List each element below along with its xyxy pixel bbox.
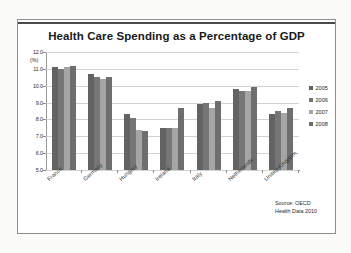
bar-group: Ireland — [154, 52, 190, 170]
slide-top-rule — [18, 22, 335, 24]
bar — [70, 66, 76, 171]
y-axis-tick-label: 5.0 — [36, 167, 43, 173]
x-axis-category-label: Italy — [191, 170, 203, 182]
y-axis-tick-label: 9.0 — [36, 100, 43, 106]
y-axis-tick — [43, 170, 46, 171]
x-axis-tick — [298, 170, 299, 173]
bar-group: Italy — [191, 52, 227, 170]
legend-swatch — [309, 86, 313, 90]
bar-group: Germany — [82, 52, 118, 170]
bar-group: Hungary — [118, 52, 154, 170]
source-note: Source: OECD Health Data 2010 — [275, 199, 317, 215]
legend-item: 2007 — [309, 106, 339, 118]
y-axis-tick-label: 10.0 — [33, 83, 43, 89]
x-axis-tick — [153, 170, 154, 173]
x-axis-category-label: Ireland — [154, 166, 171, 182]
source-note-line2: Health Data 2010 — [275, 207, 317, 215]
legend-swatch — [309, 110, 313, 114]
chart-legend: 2005200620072008 — [309, 82, 339, 130]
bar — [106, 77, 112, 170]
plot-area: 12.011.010.09.08.07.06.05.0FranceGermany… — [46, 52, 299, 170]
chart-title: Health Care Spending as a Percentage of … — [18, 30, 335, 42]
bar-group: France — [46, 52, 82, 170]
legend-item: 2006 — [309, 94, 339, 106]
legend-label: 2007 — [316, 109, 328, 115]
x-axis-tick — [81, 170, 82, 173]
x-axis-category-label: France — [46, 165, 63, 182]
x-axis-tick — [226, 170, 227, 173]
legend-label: 2006 — [316, 97, 328, 103]
legend-item: 2005 — [309, 82, 339, 94]
y-axis-tick-label: 7.0 — [36, 133, 43, 139]
bar — [215, 101, 221, 170]
bar — [178, 108, 184, 170]
x-axis-tick — [262, 170, 263, 173]
y-axis-tick-label: 8.0 — [36, 116, 43, 122]
y-axis-tick-label: 11.0 — [33, 66, 43, 72]
source-note-line1: Source: OECD — [275, 199, 317, 207]
legend-item: 2008 — [309, 118, 339, 130]
y-axis-unit-label: (%) — [30, 57, 38, 63]
y-axis-tick-label: 6.0 — [36, 150, 43, 156]
bar — [142, 131, 148, 170]
x-axis-tick — [190, 170, 191, 173]
legend-label: 2008 — [316, 121, 328, 127]
legend-label: 2005 — [316, 85, 328, 91]
bar-group: United Kingdom — [263, 52, 299, 170]
legend-swatch — [309, 122, 313, 126]
bar-group: Netherlands — [227, 52, 263, 170]
x-axis-tick — [117, 170, 118, 173]
scanned-page: Health Care Spending as a Percentage of … — [0, 0, 351, 253]
legend-swatch — [309, 98, 313, 102]
chart-slide: Health Care Spending as a Percentage of … — [17, 19, 336, 234]
y-axis-tick-label: 12.0 — [33, 49, 43, 55]
